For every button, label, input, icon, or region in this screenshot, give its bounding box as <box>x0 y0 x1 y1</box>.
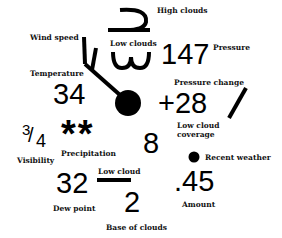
low-clouds-label: Low clouds <box>110 40 157 48</box>
low-cloud-coverage-line2: coverage <box>177 130 215 139</box>
temperature-label: Temperature <box>30 70 84 78</box>
precipitation-symbol: ** <box>61 115 95 153</box>
recent-weather-label: Recent weather <box>205 154 271 162</box>
temperature-value: 34 <box>53 80 85 109</box>
visibility-label: Visibility <box>17 157 54 165</box>
pressure-change-value: +28 <box>158 89 207 118</box>
low-cloud-coverage-line1: Low cloud <box>177 121 219 130</box>
dew-point-value: 32 <box>56 169 88 198</box>
recent-weather-icon <box>189 152 200 163</box>
low-cloud-coverage-label: Low cloud coverage <box>177 121 219 140</box>
visibility-slash: / <box>28 125 34 145</box>
visibility-denominator: 4 <box>36 132 46 150</box>
low-cloud-label: Low cloud <box>98 168 140 176</box>
dew-point-label: Dew point <box>53 205 95 213</box>
amount-value: .45 <box>174 167 214 196</box>
pressure-change-label: Pressure change <box>174 79 244 87</box>
pressure-value: 147 <box>161 40 209 69</box>
low-cloud-coverage-value: 8 <box>143 129 159 158</box>
pressure-tendency-icon <box>229 88 246 118</box>
wind-speed-label: Wind speed <box>30 34 79 42</box>
base-of-clouds-value: 2 <box>124 188 140 217</box>
high-clouds-label: High clouds <box>157 7 208 15</box>
amount-label: Amount <box>182 201 215 209</box>
low-clouds-icon <box>113 52 149 68</box>
pressure-label: Pressure <box>213 44 250 52</box>
high-clouds-icon <box>108 10 150 30</box>
base-of-clouds-label: Base of clouds <box>106 224 167 232</box>
